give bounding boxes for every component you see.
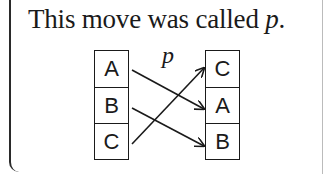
arrow-c <box>132 68 204 144</box>
arrow-a <box>132 70 204 109</box>
arrow-b <box>132 108 204 146</box>
diagram-panel: This move was called p. p A B C C A B <box>0 0 325 174</box>
arrows <box>0 0 325 174</box>
